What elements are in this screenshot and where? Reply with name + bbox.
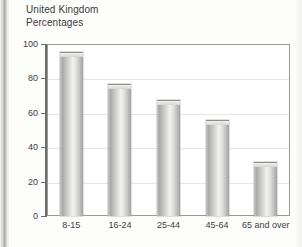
bar-cap [254, 163, 277, 167]
y-axis-tick-label: 0 [12, 211, 38, 221]
y-axis-tick-label: 40 [12, 142, 38, 152]
y-axis-tick-label: 60 [12, 108, 38, 118]
y-axis-tick [41, 147, 47, 148]
x-axis-tick-label: 25-44 [157, 220, 180, 230]
y-axis-tick [41, 216, 47, 217]
bars-layer [47, 44, 290, 216]
page-gutter-inner [7, 0, 9, 247]
y-axis-tick-label: 20 [12, 177, 38, 187]
bar [206, 120, 229, 216]
bar [108, 84, 131, 216]
x-axis-tick-label: 16-24 [108, 220, 131, 230]
x-axis-tick-label: 8-15 [62, 220, 80, 230]
x-axis-tick-label: 45-64 [206, 220, 229, 230]
bar-cap [206, 121, 229, 125]
bar-cap [157, 101, 180, 105]
y-axis-tick [41, 44, 47, 45]
x-axis-tick-label: 65 and over [242, 220, 290, 230]
bar [157, 100, 180, 216]
y-axis-tick-label: 80 [12, 73, 38, 83]
bar [254, 162, 277, 216]
x-axis-labels: 8-1516-2425-4445-6465 and over [47, 220, 290, 238]
bar-cap [60, 53, 83, 57]
y-axis-tick [41, 78, 47, 79]
bar [60, 52, 83, 216]
y-axis-tick [41, 113, 47, 114]
y-axis-tick [41, 182, 47, 183]
y-axis-labels: 020406080100 [10, 0, 38, 247]
page-right-margin [296, 0, 302, 247]
bar-cap [108, 85, 131, 89]
chart-page: United Kingdom Percentages 020406080100 … [0, 0, 302, 247]
y-axis-tick-label: 100 [12, 39, 38, 49]
